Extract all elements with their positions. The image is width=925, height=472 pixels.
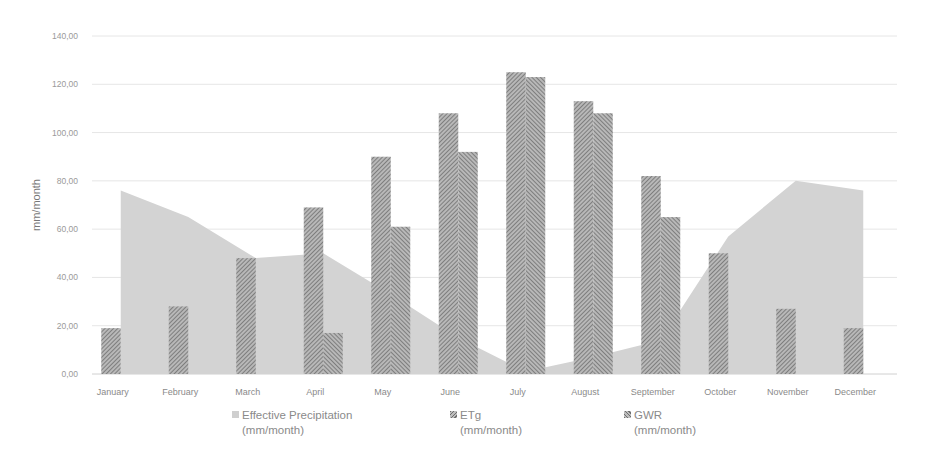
gwr-bar	[323, 333, 343, 374]
x-tick-label: August	[571, 387, 600, 397]
chart-plot: 0,0020,0040,0060,0080,00100,00120,00140,…	[0, 0, 925, 405]
y-tick-label: 100,00	[52, 128, 78, 138]
etg-bar	[236, 258, 256, 374]
etg-bar	[574, 101, 594, 374]
y-tick-label: 140,00	[52, 31, 78, 41]
y-tick-label: 20,00	[57, 321, 79, 331]
y-axis-ticks: 0,0020,0040,0060,0080,00100,00120,00140,…	[52, 31, 78, 379]
legend-unit: (mm/month)	[624, 423, 696, 438]
y-tick-label: 60,00	[57, 224, 79, 234]
etg-bar	[169, 306, 189, 374]
x-tick-label: December	[834, 387, 876, 397]
x-axis-labels: JanuaryFebruaryMarchAprilMayJuneJulyAugu…	[97, 387, 876, 397]
etg-bar	[439, 113, 459, 374]
y-tick-label: 40,00	[57, 272, 79, 282]
gwr-bar	[661, 217, 681, 374]
x-tick-label: January	[97, 387, 130, 397]
gwr-bar	[526, 77, 546, 374]
y-tick-label: 0,00	[61, 369, 78, 379]
area-swatch-icon	[232, 411, 239, 418]
x-tick-label: February	[162, 387, 199, 397]
legend-item-gwr: GWR (mm/month)	[624, 408, 696, 438]
etg-bar	[304, 207, 324, 374]
legend-label: ETg	[460, 409, 481, 421]
gwr-bar	[593, 113, 613, 374]
legend-label: GWR	[634, 409, 662, 421]
y-tick-label: 120,00	[52, 79, 78, 89]
x-tick-label: April	[306, 387, 324, 397]
etg-bar	[101, 328, 121, 374]
x-tick-label: May	[374, 387, 392, 397]
etg-bar	[776, 309, 796, 374]
etg-bar	[844, 328, 864, 374]
x-tick-label: March	[235, 387, 260, 397]
y-tick-label: 80,00	[57, 176, 79, 186]
etg-bar	[371, 157, 391, 374]
legend-item-etg: ETg (mm/month)	[450, 408, 522, 438]
gwr-hatch-swatch-icon	[624, 411, 631, 418]
etg-hatch-swatch-icon	[450, 411, 457, 418]
etg-bar	[506, 72, 526, 374]
etg-bar	[641, 176, 661, 374]
legend-label: Effective Precipitation	[242, 409, 352, 421]
gwr-bar	[458, 152, 478, 374]
legend-unit: (mm/month)	[232, 423, 352, 438]
x-tick-label: November	[767, 387, 809, 397]
legend-unit: (mm/month)	[450, 423, 522, 438]
x-tick-label: June	[440, 387, 460, 397]
legend-item-effective-precipitation: Effective Precipitation (mm/month)	[232, 408, 352, 438]
etg-bar	[709, 253, 729, 374]
gwr-bar	[391, 227, 411, 374]
y-axis-label: mm/month	[30, 179, 42, 231]
x-tick-label: October	[704, 387, 736, 397]
x-tick-label: July	[510, 387, 527, 397]
x-tick-label: September	[631, 387, 675, 397]
